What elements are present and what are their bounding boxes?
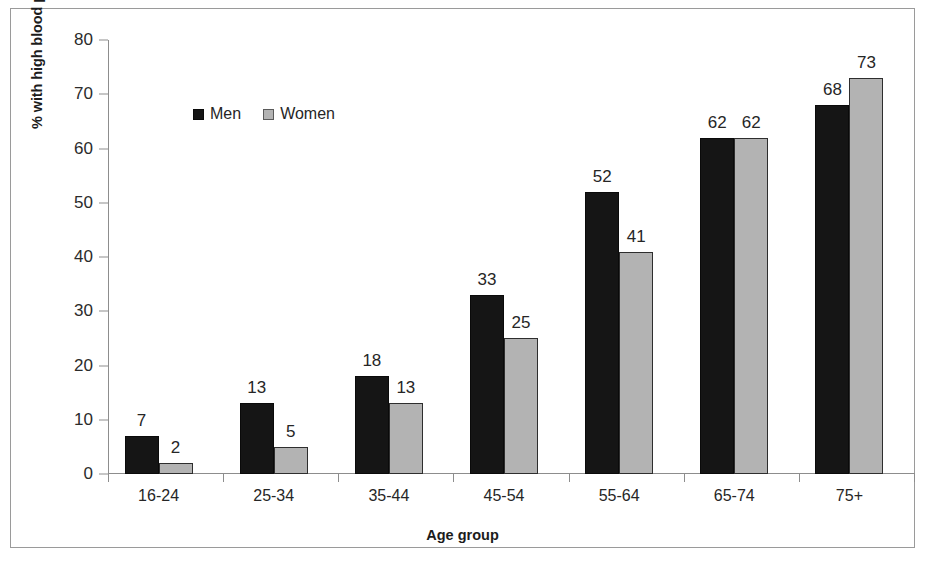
bar-women-35-44 bbox=[389, 403, 423, 474]
bar-men-45-54 bbox=[470, 295, 504, 474]
y-tick-label-30: 30 bbox=[49, 301, 93, 321]
bar-men-55-64 bbox=[585, 192, 619, 474]
legend-item-women: Women bbox=[263, 105, 335, 123]
y-tick-mark-80 bbox=[99, 40, 108, 41]
x-tick-mark-3 bbox=[453, 473, 454, 482]
y-tick-label-0: 0 bbox=[49, 464, 93, 484]
x-tick-mark-4 bbox=[569, 473, 570, 482]
data-label-women-75+: 73 bbox=[857, 53, 876, 73]
data-label-men-55-64: 52 bbox=[593, 167, 612, 187]
x-tick-mark-0 bbox=[108, 473, 109, 482]
x-tick-label-25-34: 25-34 bbox=[253, 487, 294, 505]
data-label-women-55-64: 41 bbox=[627, 227, 646, 247]
y-tick-mark-0 bbox=[99, 474, 108, 475]
y-tick-mark-10 bbox=[99, 419, 108, 420]
y-tick-mark-60 bbox=[99, 148, 108, 149]
data-label-men-65-74: 62 bbox=[708, 113, 727, 133]
bar-men-75+ bbox=[815, 105, 849, 474]
data-label-men-75+: 68 bbox=[823, 80, 842, 100]
y-tick-mark-20 bbox=[99, 365, 108, 366]
x-tick-mark-end bbox=[914, 473, 915, 482]
bar-women-55-64 bbox=[619, 252, 653, 474]
x-tick-mark-5 bbox=[684, 473, 685, 482]
data-label-men-45-54: 33 bbox=[478, 270, 497, 290]
data-label-women-35-44: 13 bbox=[396, 378, 415, 398]
bar-men-35-44 bbox=[355, 376, 389, 474]
bar-men-25-34 bbox=[240, 403, 274, 474]
x-tick-label-75+: 75+ bbox=[836, 487, 863, 505]
x-tick-mark-1 bbox=[223, 473, 224, 482]
x-tick-label-65-74: 65-74 bbox=[714, 487, 755, 505]
bar-men-16-24 bbox=[125, 436, 159, 474]
data-label-men-16-24: 7 bbox=[137, 411, 146, 431]
chart-frame: % with high blood pressure 0102030405060… bbox=[10, 8, 915, 548]
x-tick-label-45-54: 45-54 bbox=[484, 487, 525, 505]
y-tick-label-70: 70 bbox=[49, 84, 93, 104]
bar-men-65-74 bbox=[700, 138, 734, 474]
chart-legend: Men Women bbox=[193, 105, 335, 123]
y-tick-label-20: 20 bbox=[49, 356, 93, 376]
x-tick-label-16-24: 16-24 bbox=[138, 487, 179, 505]
x-axis-title: Age group bbox=[11, 527, 914, 543]
data-label-men-35-44: 18 bbox=[362, 351, 381, 371]
legend-label-women: Women bbox=[280, 105, 335, 123]
women-swatch-icon bbox=[263, 109, 274, 120]
y-tick-mark-70 bbox=[99, 94, 108, 95]
y-tick-label-60: 60 bbox=[49, 139, 93, 159]
bar-women-25-34 bbox=[274, 447, 308, 474]
bar-women-75+ bbox=[849, 78, 883, 474]
men-swatch-icon bbox=[193, 109, 204, 120]
x-tick-mark-6 bbox=[799, 473, 800, 482]
x-tick-label-55-64: 55-64 bbox=[599, 487, 640, 505]
x-tick-mark-2 bbox=[338, 473, 339, 482]
y-tick-label-80: 80 bbox=[49, 30, 93, 50]
legend-label-men: Men bbox=[210, 105, 241, 123]
y-tick-label-50: 50 bbox=[49, 193, 93, 213]
data-label-women-16-24: 2 bbox=[171, 438, 180, 458]
y-tick-mark-30 bbox=[99, 311, 108, 312]
bar-women-45-54 bbox=[504, 338, 538, 474]
bar-women-16-24 bbox=[159, 463, 193, 474]
y-tick-label-10: 10 bbox=[49, 410, 93, 430]
legend-item-men: Men bbox=[193, 105, 241, 123]
data-label-women-25-34: 5 bbox=[286, 422, 295, 442]
y-tick-mark-50 bbox=[99, 202, 108, 203]
data-label-men-25-34: 13 bbox=[247, 378, 266, 398]
x-tick-label-35-44: 35-44 bbox=[368, 487, 409, 505]
y-tick-mark-40 bbox=[99, 257, 108, 258]
data-label-women-65-74: 62 bbox=[742, 113, 761, 133]
data-label-women-45-54: 25 bbox=[512, 313, 531, 333]
y-tick-label-40: 40 bbox=[49, 247, 93, 267]
bar-women-65-74 bbox=[734, 138, 768, 474]
